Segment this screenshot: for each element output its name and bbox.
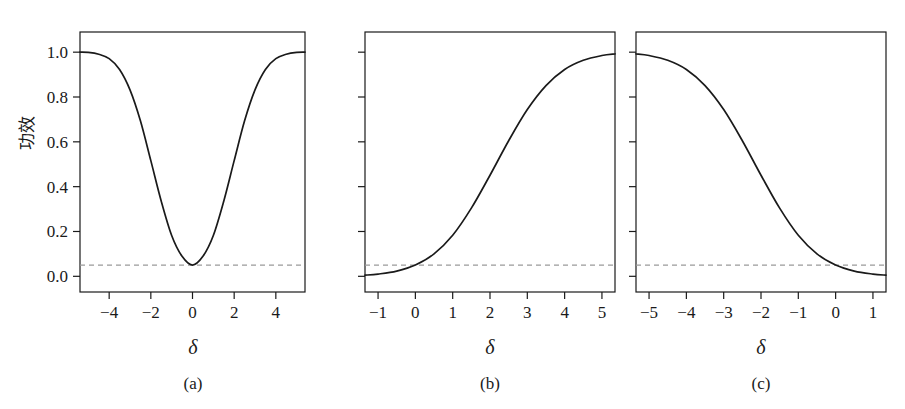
y-tick-label-a-0: 0.0 bbox=[47, 267, 68, 286]
x-tick-label-b-3: 2 bbox=[486, 303, 495, 322]
x-tick-label-b-4: 3 bbox=[523, 303, 532, 322]
x-axis-symbol-b: δ bbox=[485, 336, 495, 358]
x-tick-label-c-3: −2 bbox=[752, 303, 770, 322]
power-curve-a bbox=[80, 52, 305, 265]
x-tick-label-a-4: 4 bbox=[272, 303, 281, 322]
panel-caption-b: (b) bbox=[480, 374, 500, 393]
y-axis-label: 功效 bbox=[19, 124, 36, 150]
x-tick-label-c-1: −4 bbox=[677, 303, 696, 322]
x-tick-label-c-4: −1 bbox=[789, 303, 807, 322]
x-tick-label-a-1: −2 bbox=[142, 303, 160, 322]
power-curve-b bbox=[365, 54, 615, 275]
x-tick-label-a-0: −4 bbox=[100, 303, 119, 322]
x-tick-label-c-2: −3 bbox=[715, 303, 733, 322]
panel-caption-c: (c) bbox=[752, 374, 771, 393]
power-curve-c bbox=[636, 54, 886, 275]
x-tick-label-b-2: 1 bbox=[448, 303, 457, 322]
x-tick-label-c-0: −5 bbox=[640, 303, 658, 322]
x-tick-label-b-5: 4 bbox=[560, 303, 569, 322]
figure-canvas: 0.00.20.40.60.81.0−4−2024δ(a)−1012345δ(b… bbox=[0, 0, 905, 409]
panel-a: 0.00.20.40.60.81.0−4−2024δ(a) bbox=[47, 32, 305, 393]
x-tick-label-c-6: 1 bbox=[869, 303, 878, 322]
x-tick-label-a-2: 0 bbox=[188, 303, 197, 322]
power-curves-figure: 功效 0.00.20.40.60.81.0−4−2024δ(a)−1012345… bbox=[0, 0, 905, 409]
y-tick-label-a-4: 0.8 bbox=[47, 88, 68, 107]
y-tick-label-a-2: 0.4 bbox=[47, 178, 69, 197]
panel-c: −5−4−3−2−101δ(c) bbox=[629, 32, 886, 393]
plot-box-c bbox=[636, 32, 886, 292]
x-axis-symbol-c: δ bbox=[756, 336, 766, 358]
x-tick-label-c-5: 0 bbox=[831, 303, 840, 322]
y-tick-label-a-3: 0.6 bbox=[47, 133, 68, 152]
panel-caption-a: (a) bbox=[184, 374, 203, 393]
x-tick-label-a-3: 2 bbox=[230, 303, 239, 322]
x-tick-label-b-1: 0 bbox=[411, 303, 420, 322]
y-tick-label-a-1: 0.2 bbox=[47, 222, 68, 241]
plot-box-b bbox=[365, 32, 615, 292]
x-tick-label-b-0: −1 bbox=[369, 303, 387, 322]
x-tick-label-b-6: 5 bbox=[598, 303, 607, 322]
y-tick-label-a-5: 1.0 bbox=[47, 43, 68, 62]
plot-box-a bbox=[80, 32, 305, 292]
panel-b: −1012345δ(b) bbox=[358, 32, 615, 393]
x-axis-symbol-a: δ bbox=[188, 336, 198, 358]
